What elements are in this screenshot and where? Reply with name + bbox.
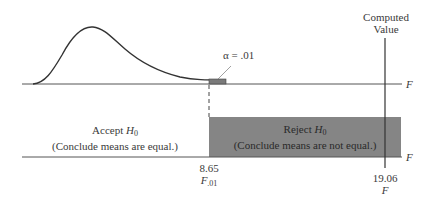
accept-region-label: Accept H0 (Conclude means are equal.) bbox=[30, 124, 200, 152]
computed-value-label: Computed Value bbox=[360, 11, 412, 35]
density-curve bbox=[33, 27, 226, 84]
bottom-axis-label: F bbox=[406, 151, 413, 163]
top-axis-label: F bbox=[406, 78, 413, 90]
alpha-leader-line bbox=[218, 66, 231, 79]
alpha-label: α = .01 bbox=[223, 49, 254, 61]
critical-value-label: 8.65 F.01 bbox=[194, 162, 224, 190]
computed-f-label: 19.06 F bbox=[368, 172, 402, 196]
reject-region-label: Reject H0 (Conclude means are not equal.… bbox=[209, 123, 401, 151]
alpha-tail-area bbox=[209, 79, 226, 84]
